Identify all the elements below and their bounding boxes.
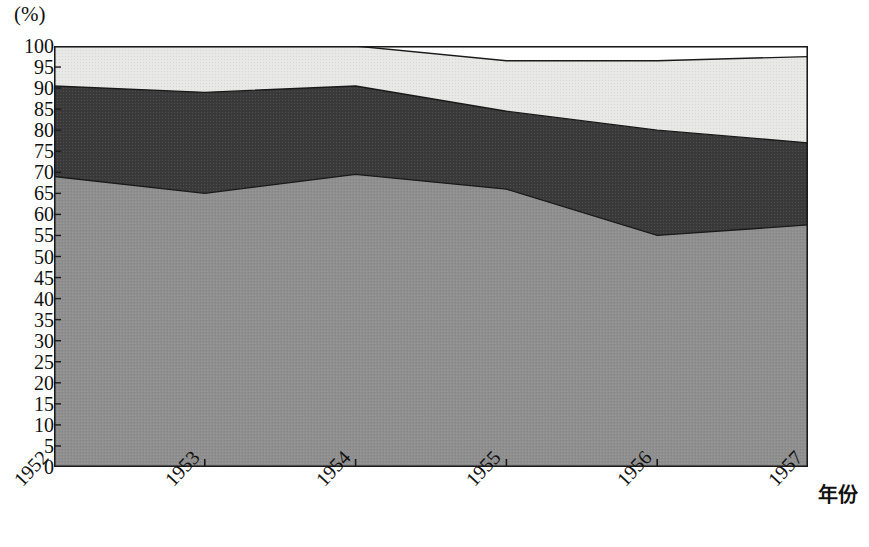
- x-axis-title: 年份: [818, 485, 858, 505]
- x-axis-tick-labels: 195219531954195519561957: [0, 0, 869, 547]
- x-axis-tick-label: 1956: [613, 447, 655, 490]
- x-axis-tick-label: 1955: [462, 447, 504, 490]
- x-axis-tick-label: 1957: [764, 447, 806, 490]
- x-axis-tick-label: 1954: [312, 447, 354, 490]
- x-axis-tick-label: 1952: [10, 447, 52, 490]
- stacked-area-chart: (%) 051015202530354045505560657075808590…: [0, 0, 869, 547]
- x-axis-tick-label: 1953: [161, 447, 203, 490]
